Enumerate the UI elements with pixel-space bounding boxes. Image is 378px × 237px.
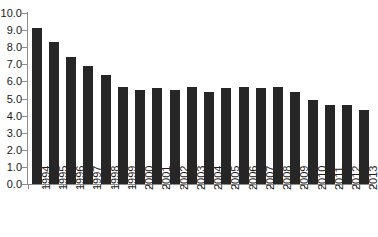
y-axis-tick [22,167,27,168]
y-axis-tick [22,116,27,117]
y-axis-tick [22,184,27,185]
y-axis-tick-label: 2.0 [0,144,22,155]
y-axis-tick-label: 9.0 [0,25,22,36]
y-axis-tick-label: 4.0 [0,110,22,121]
y-axis-tick-label: 0.0 [0,179,22,190]
bar-chart: 0.01.02.03.04.05.06.07.08.09.010.0 19941… [0,0,378,237]
y-axis-tick [22,47,27,48]
bar [256,88,266,184]
bar [325,105,335,184]
bar [49,42,59,184]
y-axis-tick-label: 1.0 [0,161,22,172]
bar [101,75,111,184]
bar [118,87,128,184]
bar [290,92,300,184]
y-axis-tick-label: 8.0 [0,42,22,53]
bar [32,28,42,184]
bar [342,105,352,184]
y-axis-tick [22,13,27,14]
bar [187,87,197,184]
y-axis-tick [22,150,27,151]
bar [239,87,249,184]
bar [221,88,231,184]
y-axis-tick [22,99,27,100]
y-axis-tick-label: 10.0 [0,8,22,19]
x-axis-tick [28,185,29,189]
y-axis-tick [22,64,27,65]
plot-area [28,13,373,184]
bar [135,90,145,184]
bar [66,57,76,184]
y-axis-tick [22,81,27,82]
bar [308,100,318,184]
y-axis-tick [22,30,27,31]
bar [273,87,283,184]
bar [83,66,93,184]
y-axis-tick-label: 6.0 [0,76,22,87]
bar [170,90,180,184]
y-axis-tick-label: 3.0 [0,127,22,138]
bar [152,88,162,184]
y-axis-tick-label: 7.0 [0,59,22,70]
bar [359,110,369,184]
y-axis-tick [22,133,27,134]
bar [204,92,214,184]
y-axis-tick-label: 5.0 [0,93,22,104]
